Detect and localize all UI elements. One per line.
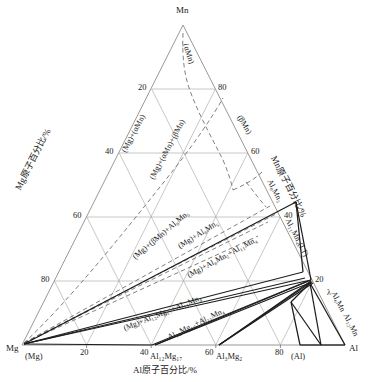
tick-left-80: 80	[41, 275, 50, 284]
tick-upper-80: 80	[218, 83, 227, 92]
corner-label-al: Al	[349, 344, 358, 353]
tick-bottom-40: 40	[140, 348, 149, 357]
corner-label-mn: Mn	[176, 6, 189, 15]
tick-right-60: 60	[251, 147, 260, 156]
tick-bottom-60: 60	[205, 348, 214, 357]
axis-title-bottom: Al原子百分比/%	[133, 366, 197, 375]
tick-left-40: 40	[105, 147, 114, 156]
tick-upper-20: 20	[138, 83, 147, 92]
tick-bottom-20: 20	[80, 348, 89, 357]
tick-bottom-80: 80	[275, 348, 284, 357]
compound-al3mg2: Al₃Mg₂	[216, 352, 242, 361]
corner-phase-al: (Al)	[291, 352, 305, 361]
ternary-phase-diagram: Mn Mg (Mg) Al (Al) 20 40 60 80 Al₁₂Mg₁₇ …	[0, 0, 372, 382]
compound-al12mg17: Al₁₂Mg₁₇	[150, 352, 182, 361]
corner-phase-mg: (Mg)	[25, 352, 42, 361]
corner-label-mg: Mg	[6, 344, 19, 353]
tick-left-60: 60	[73, 211, 82, 220]
tick-right-20: 20	[315, 275, 324, 284]
